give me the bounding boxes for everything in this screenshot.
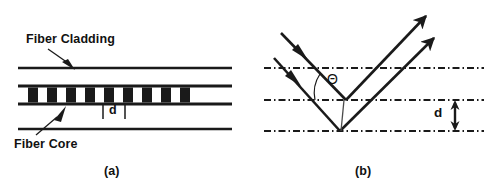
- fiber-cladding-label: Fiber Cladding: [26, 33, 115, 46]
- panel-a-drawing: [0, 0, 248, 190]
- grating-block: [180, 88, 190, 103]
- core-leader-arrow: [36, 106, 66, 135]
- layer-spacing-label: d: [434, 106, 442, 120]
- grating-block: [28, 88, 38, 103]
- grating-block-group: [28, 88, 190, 103]
- panel-b-caption: (b): [355, 165, 371, 178]
- outgoing-ray-2: [340, 38, 434, 131]
- grating-period-label: d: [109, 104, 117, 117]
- grating-block: [161, 88, 171, 103]
- incoming-ray-2: [274, 58, 340, 131]
- grating-block: [142, 88, 152, 103]
- incoming-ray-1: [281, 33, 346, 100]
- grating-block: [85, 88, 95, 103]
- panel-b-drawing: [248, 0, 495, 190]
- theta-angle-label: Θ: [327, 72, 338, 86]
- grating-block: [47, 88, 57, 103]
- grating-block: [66, 88, 76, 103]
- theta-angle-arc: [314, 74, 320, 100]
- fiber-core-label: Fiber Core: [14, 138, 78, 151]
- panel-a-fiber-grating: Fiber Cladding Fiber Core d (a): [0, 0, 248, 190]
- panel-b-ray-geometry: Θ d (b): [248, 0, 495, 190]
- grating-block: [123, 88, 133, 103]
- grating-block: [104, 88, 114, 103]
- panel-a-caption: (a): [104, 165, 120, 178]
- figure-root: Fiber Cladding Fiber Core d (a): [0, 0, 495, 190]
